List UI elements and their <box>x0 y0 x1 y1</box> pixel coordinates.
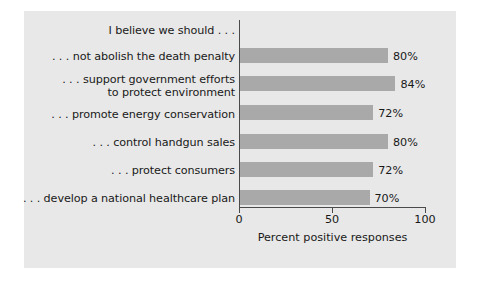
category-label-4: . . . protect consumers <box>111 165 235 178</box>
x-axis-title: Percent positive responses <box>239 231 426 244</box>
figure: I believe we should . . . 0 50 100 Perce… <box>0 0 481 286</box>
category-label-5: . . . develop a national healthcare plan <box>23 193 235 206</box>
x-tick-label-50: 50 <box>325 213 339 226</box>
x-tick-label-0: 0 <box>235 213 242 226</box>
bar-value-label-3: 80% <box>393 136 418 149</box>
bar-value-label-1: 84% <box>400 78 425 91</box>
category-label-0: . . . not abolish the death penalty <box>52 51 235 64</box>
x-tick-label-100: 100 <box>414 213 435 226</box>
bar-2 <box>240 105 373 120</box>
bar-5 <box>240 190 370 205</box>
bar-3 <box>240 134 388 149</box>
bar-value-label-0: 80% <box>393 50 418 63</box>
chart-title: I believe we should . . . <box>109 25 236 38</box>
bar-value-label-5: 70% <box>375 192 400 205</box>
bar-4 <box>240 162 373 177</box>
bar-0 <box>240 48 388 63</box>
category-label-1: . . . support government efforts to prot… <box>62 74 235 99</box>
bar-value-label-4: 72% <box>378 164 403 177</box>
category-label-3: . . . control handgun sales <box>93 137 235 150</box>
bar-value-label-2: 72% <box>378 107 403 120</box>
bar-chart-plot: I believe we should . . . 0 50 100 Perce… <box>0 0 481 286</box>
bar-1 <box>240 76 395 91</box>
category-label-2: . . . promote energy conservation <box>51 109 235 122</box>
